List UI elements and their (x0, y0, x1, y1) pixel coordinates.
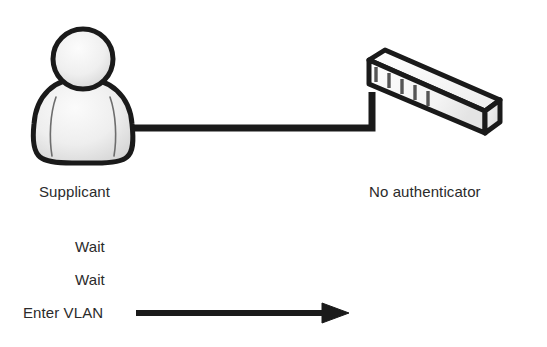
authenticator-label: No authenticator (369, 183, 481, 200)
enter-vlan-arrow (136, 303, 349, 323)
network-switch-icon (369, 50, 500, 133)
link-path (128, 92, 372, 128)
person-head (53, 29, 113, 89)
diagram-canvas (0, 0, 547, 347)
arrow-head-icon (322, 303, 349, 323)
supplicant-to-switch-link (128, 92, 372, 128)
sequence-label-wait-1: Wait (75, 238, 105, 255)
sequence-label-enter-vlan: Enter VLAN (23, 304, 103, 321)
person-icon (33, 29, 133, 163)
sequence-label-wait-2: Wait (75, 271, 105, 288)
supplicant-label: Supplicant (39, 183, 110, 200)
